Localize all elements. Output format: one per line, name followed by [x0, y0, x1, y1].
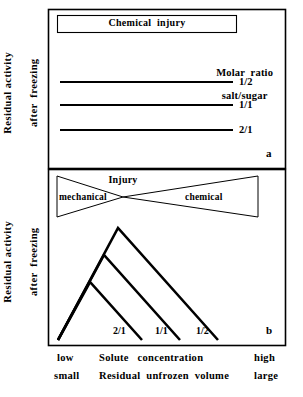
x-axis-row2-center: Residual unfrozen volume: [99, 370, 229, 381]
bowtie-title: Injury: [93, 175, 153, 186]
y-axis-label-b-line1: Residual activity: [2, 221, 13, 303]
x-axis-row2-right: large: [254, 370, 278, 381]
series-label-1-2: 1/2: [239, 76, 252, 87]
x-axis-row2-left: small: [54, 370, 79, 381]
curve-label-1-2: 1/2: [196, 326, 209, 337]
series-label-2-1: 2/1: [239, 124, 252, 135]
curve-label-2-1: 2/1: [113, 326, 126, 337]
curve-label-1-1: 1/1: [155, 326, 168, 337]
x-axis-row1-center: Solute concentration: [99, 352, 203, 363]
panel-b-label: b: [266, 325, 272, 337]
y-axis-label-panel-b: Residual activity after freezing: [0, 218, 54, 318]
y-axis-label-panel-a: Residual activity after freezing: [0, 49, 54, 149]
series-label-1-1: 1/1: [239, 99, 252, 110]
y-axis-label-line1: Residual activity: [2, 52, 13, 134]
chemical-injury-label: Chemical injury: [57, 18, 237, 29]
x-axis-row1-left: low: [57, 352, 74, 363]
figure-root: Residual activity after freezing Residua…: [0, 0, 303, 397]
y-axis-label-line2: after freezing: [29, 58, 40, 127]
bowtie-chemical-label: chemical: [185, 192, 222, 202]
y-axis-label-b-line2: after freezing: [29, 227, 40, 296]
panel-a-label: a: [266, 148, 272, 160]
bowtie-mechanical-label: mechanical: [59, 192, 107, 202]
x-axis-row1-right: high: [254, 352, 275, 363]
